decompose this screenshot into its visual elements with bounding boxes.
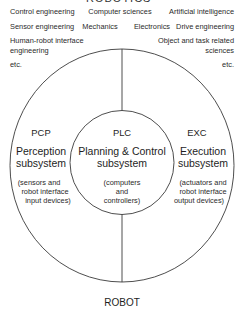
plc-name-line2: subsystem xyxy=(97,158,147,169)
pcp-detail-line1: (sensors and xyxy=(18,179,61,186)
exc-name-line1: Execution xyxy=(180,146,226,157)
plc-detail-line3: controllers) xyxy=(104,197,141,204)
exc-detail-line3: output devices) xyxy=(174,197,224,204)
exc-name-line2: subsystem xyxy=(178,158,228,169)
robot-label: ROBOT xyxy=(104,298,140,308)
pcp-abbr: PCP xyxy=(31,128,50,137)
plc-name-line1: Planning & Control xyxy=(78,146,166,157)
exc-detail-line1: (actuators and xyxy=(179,179,226,186)
pcp-name-line2: subsystem xyxy=(16,158,66,169)
plc-abbr: PLC xyxy=(113,128,131,137)
pcp-name-line1: Perception xyxy=(16,146,66,157)
plc-detail-line2: and xyxy=(116,188,128,195)
exc-detail-line2: robot interface xyxy=(179,188,226,195)
pcp-detail-line3: input devices) xyxy=(25,197,71,204)
exc-abbr: EXC xyxy=(187,128,206,137)
pcp-detail-line2: robot interface xyxy=(21,188,68,195)
plc-detail-line1: (computers xyxy=(104,179,141,186)
